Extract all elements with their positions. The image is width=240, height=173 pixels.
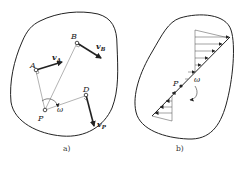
caption-a: a) — [63, 144, 70, 153]
label-P: P — [37, 114, 44, 123]
label-omega-b: ω — [194, 75, 200, 84]
diagram-canvas: A B D P ω vA vB vP a) — [0, 0, 240, 173]
label-D: D — [82, 85, 90, 94]
caption-b: b) — [176, 144, 184, 153]
figure-b: P ω b) — [135, 15, 234, 153]
point-P-b — [179, 84, 182, 87]
distribution-line — [152, 37, 230, 116]
line-P-D — [45, 96, 85, 110]
label-vP: vP — [97, 119, 107, 130]
rigid-body-outline — [11, 12, 118, 136]
bottom-edge — [152, 116, 172, 121]
omega-arc-b — [190, 86, 197, 100]
point-B — [75, 41, 79, 45]
point-P — [43, 108, 47, 112]
label-A: A — [29, 61, 36, 70]
velocity-vector-A — [36, 62, 62, 70]
velocity-vector-D — [86, 95, 94, 126]
figure-a: A B D P ω vA vB vP a) — [11, 12, 118, 153]
line-P-A — [36, 71, 45, 110]
label-omega-a: ω — [57, 105, 63, 114]
velocity-arrows-upper — [185, 37, 229, 79]
label-vB: vB — [96, 41, 106, 52]
rigid-body-outline-b — [135, 15, 234, 139]
label-vA: vA — [52, 52, 61, 63]
line-P-B — [45, 43, 77, 110]
label-P-b: P — [172, 79, 179, 88]
label-B: B — [70, 32, 77, 41]
